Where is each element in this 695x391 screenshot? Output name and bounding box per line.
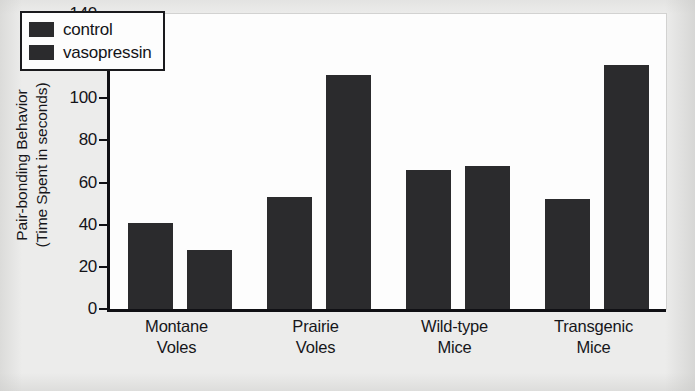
x-category-label-wild-type-mice: Wild-typeMice [385,316,524,358]
legend-swatch-control [29,22,54,37]
x-category-line-2: Voles [246,337,385,358]
bar-transgenic-mice-control [545,199,590,309]
y-tick-label-20: 20 [79,257,97,277]
x-category-line-1: Prairie [246,316,385,337]
x-category-line-1: Transgenic [524,316,663,337]
bar-prairie-voles-vasopressin [326,75,371,309]
chart-legend: controlvasopressin [20,11,165,71]
bar-transgenic-mice-vasopressin [604,65,649,309]
legend-label-control: control [63,20,113,40]
x-axis-line [107,309,666,312]
x-category-line-1: Montane [107,316,246,337]
y-tick-label-60: 60 [79,173,97,193]
x-category-line-2: Voles [107,337,246,358]
x-axis-category-labels: MontaneVolesPrairieVolesWild-typeMiceTra… [107,316,666,376]
y-tick-label-100: 100 [70,88,97,108]
y-tick-label-40: 40 [79,215,97,235]
plot-area [110,14,666,309]
y-tick-mark-0 [99,308,107,310]
x-category-label-montane-voles: MontaneVoles [107,316,246,358]
y-axis-title-line-1: Pair-bonding Behavior [12,82,32,247]
y-tick-mark-20 [99,266,107,268]
y-tick-mark-40 [99,224,107,226]
figure-page: Pair-bonding Behavior (Time Spent in sec… [0,0,695,391]
bar-wild-type-mice-vasopressin [465,166,510,309]
y-tick-label-0: 0 [88,299,97,319]
bar-montane-voles-vasopressin [187,250,232,309]
y-axis-title-line-2: (Time Spent in seconds) [32,82,52,247]
y-tick-label-80: 80 [79,130,97,150]
legend-item-control: control [29,18,152,41]
x-category-label-transgenic-mice: TransgenicMice [524,316,663,358]
x-category-line-2: Mice [385,337,524,358]
legend-label-vasopressin: vasopressin [63,43,152,63]
legend-item-vasopressin: vasopressin [29,41,152,64]
y-tick-mark-60 [99,182,107,184]
x-category-label-prairie-voles: PrairieVoles [246,316,385,358]
legend-swatch-vasopressin [29,45,54,60]
bar-montane-voles-control [128,223,173,309]
y-tick-mark-80 [99,139,107,141]
bar-prairie-voles-control [267,197,312,309]
x-category-line-1: Wild-type [385,316,524,337]
bar-wild-type-mice-control [406,170,451,309]
x-category-line-2: Mice [524,337,663,358]
y-tick-mark-100 [99,97,107,99]
